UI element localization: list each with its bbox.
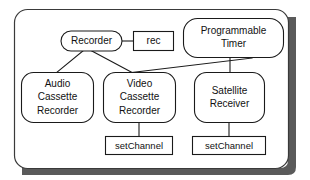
node-video-cassette-recorder-label-line1: Video [127, 78, 153, 89]
node-video-cassette-recorder-label-line2: Cassette [120, 91, 160, 102]
node-programmable-timer-label-line1: Programmable [201, 25, 267, 36]
node-audio-cassette-recorder-label-line1: Audio [45, 78, 71, 89]
node-rec-label: rec [147, 35, 161, 46]
node-satellite-receiver[interactable]: Satellite Receiver [195, 73, 265, 123]
node-satellite-receiver-label-line2: Receiver [210, 98, 250, 109]
node-audio-cassette-recorder-label-line3: Recorder [37, 105, 79, 116]
node-set-channel-video-label: setChannel [115, 140, 163, 151]
node-recorder[interactable]: Recorder [61, 31, 122, 51]
node-rec[interactable]: rec [134, 32, 174, 51]
node-programmable-timer-label-line2: Timer [221, 38, 247, 49]
diagram-canvas: Recorder rec Programmable Timer Audio Ca… [0, 0, 310, 180]
node-audio-cassette-recorder-label-line2: Cassette [38, 91, 78, 102]
node-set-channel-video[interactable]: setChannel [106, 137, 173, 155]
diagram-svg: Recorder rec Programmable Timer Audio Ca… [0, 0, 310, 180]
node-set-channel-satellite[interactable]: setChannel [193, 137, 266, 155]
node-set-channel-satellite-label: setChannel [205, 140, 253, 151]
node-video-cassette-recorder-label-line3: Recorder [119, 105, 161, 116]
node-satellite-receiver-label-line1: Satellite [212, 85, 248, 96]
node-programmable-timer[interactable]: Programmable Timer [184, 19, 284, 58]
node-audio-cassette-recorder[interactable]: Audio Cassette Recorder [22, 73, 94, 123]
node-recorder-label: Recorder [71, 35, 113, 46]
node-video-cassette-recorder[interactable]: Video Cassette Recorder [104, 73, 176, 123]
